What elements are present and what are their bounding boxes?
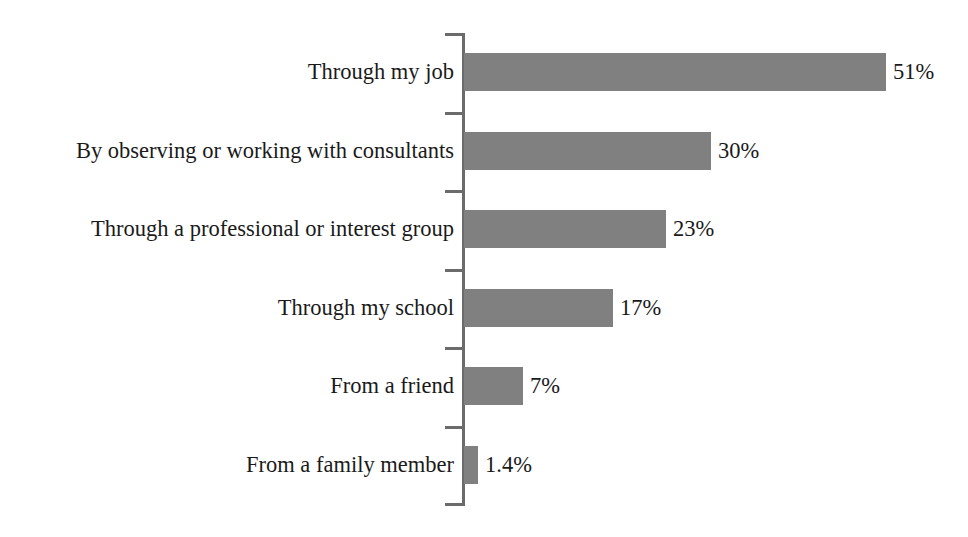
bar-value-label: 30% (718, 138, 759, 164)
bar-group: 1.4% (464, 446, 532, 484)
plot-area: Through my job 51% By observing or worki… (0, 0, 968, 537)
bar-row: From a friend 7% (0, 347, 968, 425)
category-label: By observing or working with consultants (76, 138, 454, 164)
bar-row: Through a professional or interest group… (0, 190, 968, 268)
bar (464, 367, 523, 405)
bar-group: 51% (464, 53, 934, 91)
bar-group: 17% (464, 289, 661, 327)
bar-row: Through my job 51% (0, 33, 968, 111)
bar-group: 30% (464, 132, 759, 170)
bar (464, 289, 613, 327)
bar-value-label: 51% (893, 59, 934, 85)
bar (464, 446, 478, 484)
bar-row: By observing or working with consultants… (0, 112, 968, 190)
bar (464, 132, 711, 170)
bar-value-label: 7% (530, 373, 560, 399)
category-label: Through my school (278, 295, 454, 321)
bar (464, 53, 886, 91)
bar-row: From a family member 1.4% (0, 426, 968, 504)
category-label: From a family member (246, 452, 454, 478)
bar-value-label: 17% (620, 295, 661, 321)
category-label: Through my job (308, 59, 454, 85)
bar-group: 23% (464, 210, 714, 248)
bar-chart: Through my job 51% By observing or worki… (0, 0, 968, 537)
bar-value-label: 23% (673, 216, 714, 242)
bar (464, 210, 666, 248)
category-label: From a friend (330, 373, 454, 399)
bar-value-label: 1.4% (485, 452, 532, 478)
category-label: Through a professional or interest group (91, 216, 454, 242)
bar-row: Through my school 17% (0, 269, 968, 347)
bar-group: 7% (464, 367, 560, 405)
